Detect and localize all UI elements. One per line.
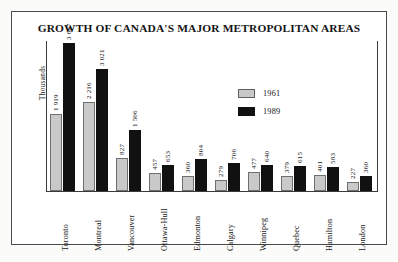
bar-value-label: 360 [185, 162, 192, 173]
bar-value-label: 360 [363, 162, 370, 173]
legend-label-1989: 1989 [263, 107, 280, 116]
bar-quebec-1961 [281, 176, 293, 191]
x-axis-label-edmonton: Edmonton [193, 216, 202, 251]
bar-value-label: 401 [317, 161, 324, 172]
bar-value-label: 827 [119, 144, 126, 155]
bar-vancouver-1961 [116, 158, 128, 191]
bar-hamilton-1989 [327, 167, 339, 191]
y-axis-title: Thousands [38, 66, 47, 100]
bar-value-label: 477 [251, 158, 258, 169]
bar-london-1989 [360, 176, 372, 191]
bar-value-label: 615 [297, 152, 304, 163]
bar-london-1961 [347, 182, 359, 191]
x-axis-category-labels: TorontoMontrealVancouverOttawa-HullEdmon… [47, 195, 377, 253]
legend-item-1961: 1961 [238, 86, 324, 101]
x-axis-label-hamilton: Hamilton [325, 219, 334, 251]
bar-value-label: 279 [218, 166, 225, 177]
bar-toronto-1989 [63, 43, 75, 191]
bar-value-label: 653 [165, 151, 172, 162]
bar-group: 227360 [347, 41, 380, 191]
bar-series-container: 1 9193 6672 2163 0218271 506457653360804… [47, 41, 377, 191]
bar-montreal-1989 [96, 69, 108, 191]
x-axis-label-calgary: Calgary [226, 224, 235, 251]
bar-ottawa-hull-1961 [149, 173, 161, 191]
bar-group: 360804 [182, 41, 215, 191]
bar-value-label: 379 [284, 162, 291, 173]
x-axis-label-quebec: Quebec [292, 225, 301, 251]
bar-value-label: 3 021 [99, 49, 106, 66]
bar-value-label: 640 [264, 151, 271, 162]
x-axis-label-toronto: Toronto [61, 224, 70, 251]
bar-value-label: 706 [231, 149, 238, 160]
bar-quebec-1989 [294, 166, 306, 191]
bar-ottawa-hull-1989 [162, 165, 174, 191]
bar-edmonton-1989 [195, 159, 207, 191]
bar-group: 8271 506 [116, 41, 149, 191]
legend-swatch-1961 [238, 89, 255, 98]
bar-value-label: 804 [198, 145, 205, 156]
bar-hamilton-1961 [314, 175, 326, 191]
bar-value-label: 1 506 [132, 110, 139, 127]
bar-group: 2 2163 021 [83, 41, 116, 191]
x-axis-label-winnipeg: Winnipeg [259, 218, 268, 251]
chart-legend: 19611989 [238, 86, 324, 122]
bar-edmonton-1961 [182, 176, 194, 191]
bar-winnipeg-1961 [248, 172, 260, 191]
bar-value-label: 2 216 [86, 82, 93, 99]
bar-value-label: 457 [152, 159, 159, 170]
x-axis-label-london: London [358, 225, 367, 251]
x-axis-label-vancouver: Vancouver [127, 215, 136, 251]
bar-calgary-1989 [228, 163, 240, 191]
bar-group: 1 9193 667 [50, 41, 83, 191]
bar-winnipeg-1989 [261, 165, 273, 191]
bar-value-label: 583 [330, 153, 337, 164]
bar-value-label: 3 667 [66, 23, 73, 40]
bar-toronto-1961 [50, 114, 62, 191]
x-axis-label-ottawa-hull: Ottawa-Hull [160, 208, 169, 251]
bar-value-label: 1 919 [53, 94, 60, 111]
legend-label-1961: 1961 [263, 89, 280, 98]
x-axis-label-montreal: Montreal [94, 220, 103, 251]
bar-group: 457653 [149, 41, 182, 191]
legend-item-1989: 1989 [238, 104, 324, 119]
bar-value-label: 227 [350, 168, 357, 179]
bar-calgary-1961 [215, 180, 227, 191]
bar-vancouver-1989 [129, 130, 141, 191]
bar-montreal-1961 [83, 102, 95, 191]
legend-swatch-1989 [238, 107, 255, 116]
